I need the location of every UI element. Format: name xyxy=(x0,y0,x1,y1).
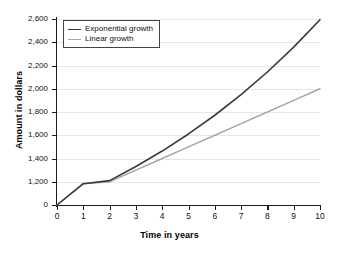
y-axis-title: Amount in dollars xyxy=(14,35,24,185)
legend-label-exponential: Exponential growth xyxy=(85,24,153,34)
series-lines-group xyxy=(0,0,339,253)
series-line-linear xyxy=(57,89,320,205)
legend-swatch-linear xyxy=(68,39,81,40)
legend-label-linear: Linear growth xyxy=(85,34,133,44)
x-axis-title: Time in years xyxy=(0,230,339,240)
legend-item-linear-growth: Linear growth xyxy=(68,34,153,44)
chart-legend: Exponential growth Linear growth xyxy=(63,20,160,48)
chart-container: 01,2001,4001,6001,8002,0002,2002,4002,60… xyxy=(0,0,339,253)
legend-swatch-exponential xyxy=(68,29,81,30)
legend-item-exponential-growth: Exponential growth xyxy=(68,24,153,34)
